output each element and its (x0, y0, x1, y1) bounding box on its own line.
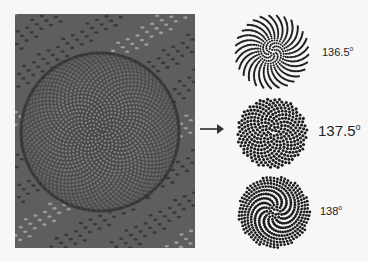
angle-label-136-5: 136.5o (322, 46, 353, 58)
arrow-right-icon (199, 122, 225, 136)
phyllotaxis-pattern-136-5 (232, 12, 312, 92)
phyllotaxis-pattern-138 (234, 172, 314, 252)
angle-label-137-5: 137.5o (318, 122, 361, 139)
sunflower-photo (15, 14, 195, 248)
angle-label-138: 138o (320, 205, 342, 217)
phyllotaxis-pattern-137-5 (234, 95, 310, 171)
